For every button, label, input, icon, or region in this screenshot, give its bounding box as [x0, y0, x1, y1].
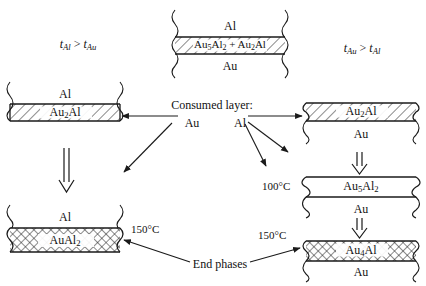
arrow-double-down-right-1 [352, 152, 367, 174]
top-stack-layer-al: Al [224, 20, 236, 32]
top-stack-layer-mixed: Au5Al2 + Au2Al [194, 39, 266, 52]
arrow-al-diagonal-lower [245, 124, 266, 166]
temperature-100c: 100°C [262, 181, 290, 192]
temperature-150c-left: 150°C [131, 224, 159, 235]
right-middle-layer-au5al2: Au5Al2 [343, 180, 378, 194]
end-phases-label: End phases [193, 258, 247, 270]
consumed-left-au: Au [185, 117, 200, 129]
left-upper-layer-al: Al [59, 88, 71, 100]
left-upper-layer-au2al: Au2Al [50, 106, 81, 120]
temperature-150c-right: 150°C [258, 230, 286, 241]
arrow-au-diagonal [124, 123, 172, 172]
arrow-al-diagonal-upper [248, 122, 288, 152]
condition-right: tAu > tAl [344, 42, 381, 56]
arrow-double-down-right-2 [352, 218, 367, 238]
left-lower-layer-al: Al [59, 211, 71, 223]
diagram-canvas: tAl > tAu tAu > tAl Al Au5Al2 + Au2Al Au… [0, 0, 426, 286]
arrow-double-down-left [59, 148, 74, 192]
right-lower-layer-au: Au [354, 266, 369, 278]
top-stack-layer-au: Au [223, 60, 238, 72]
right-lower-layer-au4al: Au4Al [346, 244, 377, 258]
condition-left: tAl > tAu [60, 38, 97, 52]
arrow-endphase-right [250, 248, 300, 262]
arrow-endphase-left [124, 240, 190, 262]
right-middle-layer-au: Au [354, 203, 369, 215]
right-upper-layer-au: Au [354, 128, 369, 140]
consumed-layer-heading: Consumed layer: [171, 99, 253, 111]
left-lower-layer-aual2: AuAl2 [50, 234, 81, 248]
consumed-right-al: Al [234, 117, 246, 129]
right-upper-layer-au2al: Au2Al [346, 105, 377, 119]
